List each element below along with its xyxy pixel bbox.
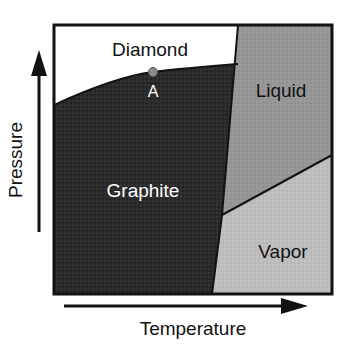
region-label-graphite: Graphite bbox=[107, 180, 180, 201]
temperature-axis-label: Temperature bbox=[140, 318, 247, 339]
phase-diagram-canvas: Diamond Graphite Liquid Vapor A Pressure… bbox=[0, 0, 354, 344]
point-a-label: A bbox=[148, 83, 159, 100]
pressure-axis-label: Pressure bbox=[5, 122, 26, 198]
pressure-axis-arrow bbox=[31, 50, 47, 232]
phase-diagram-figure: Diamond Graphite Liquid Vapor A Pressure… bbox=[0, 0, 354, 344]
region-label-liquid: Liquid bbox=[256, 80, 307, 101]
point-a-marker bbox=[149, 68, 158, 77]
region-label-diamond: Diamond bbox=[112, 39, 188, 60]
temperature-axis-arrow bbox=[64, 298, 308, 314]
region-label-vapor: Vapor bbox=[258, 241, 308, 262]
